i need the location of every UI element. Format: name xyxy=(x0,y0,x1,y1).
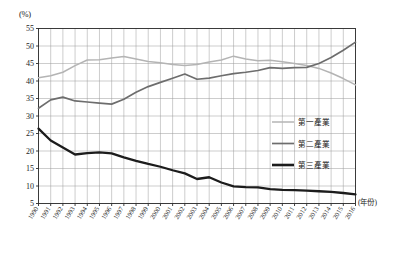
legend-label-1: 第一產業 xyxy=(298,117,330,127)
x-axis-tick-label: 1998 xyxy=(124,205,137,220)
y-axis-tick-label: 25 xyxy=(26,129,34,138)
x-axis-tick-label: 2005 xyxy=(209,205,222,220)
x-axis-tick-label: 1991 xyxy=(39,205,52,220)
x-axis-tick-label: 2004 xyxy=(197,205,210,220)
y-axis-tick-label: 35 xyxy=(26,94,34,103)
x-axis-tick-label: 1992 xyxy=(51,205,64,220)
x-axis-tick-label: 2007 xyxy=(234,205,247,220)
x-axis-tick-labels: 1990199119921993199419951996199719981999… xyxy=(26,205,356,220)
x-axis-tick-label: 1999 xyxy=(136,205,149,220)
x-axis-tick-label: 2011 xyxy=(283,205,296,220)
x-axis-tick-label: 2013 xyxy=(307,205,320,220)
x-axis-tick-label: 1990 xyxy=(26,205,39,220)
x-axis-tick-label: 2006 xyxy=(222,205,235,220)
y-axis-tick-label: 55 xyxy=(26,24,34,33)
y-axis-tick-label: 30 xyxy=(26,112,34,121)
y-axis-tick-label: 20 xyxy=(26,147,34,156)
x-axis-tick-label: 1993 xyxy=(63,205,76,220)
x-axis-tick-label: 1994 xyxy=(75,205,88,220)
x-axis-tick-label: 2002 xyxy=(173,205,186,220)
chart-canvas: 555045403530252015105 199019911992199319… xyxy=(0,0,407,254)
y-axis-tick-labels: 555045403530252015105 xyxy=(26,24,34,208)
x-axis-tick-label: 2010 xyxy=(270,205,283,220)
y-axis-tick-label: 45 xyxy=(26,59,34,68)
chart-legend: 第一產業第二產業第三產業 xyxy=(272,117,330,170)
x-axis-tick-label: 2012 xyxy=(295,205,308,220)
y-axis-tick-label: 10 xyxy=(26,182,34,191)
x-axis-tick-label: 2015 xyxy=(331,205,344,220)
y-axis-tick-label: 40 xyxy=(26,77,34,86)
line-chart: (%) (年份) 555045403530252015105 199019911… xyxy=(0,0,407,254)
x-axis-tick-label: 2016 xyxy=(343,205,356,220)
x-axis-tick-label: 1995 xyxy=(87,205,100,220)
x-axis-tick-label: 2001 xyxy=(161,205,174,220)
grid-lines xyxy=(39,29,356,204)
x-axis-tick-label: 2014 xyxy=(319,205,332,220)
x-axis-tick-label: 2003 xyxy=(185,205,198,220)
x-axis-tick-label: 2000 xyxy=(148,205,161,220)
legend-label-2: 第二產業 xyxy=(298,139,330,149)
y-axis-tick-label: 50 xyxy=(26,42,34,51)
x-axis-tick-label: 2009 xyxy=(258,205,271,220)
y-axis-tick-label: 15 xyxy=(26,164,34,173)
x-axis-tick-label: 2008 xyxy=(246,205,259,220)
legend-label-3: 第三產業 xyxy=(298,160,330,170)
x-axis-tick-label: 1996 xyxy=(100,205,113,220)
x-axis-tick-label: 1997 xyxy=(112,205,125,220)
